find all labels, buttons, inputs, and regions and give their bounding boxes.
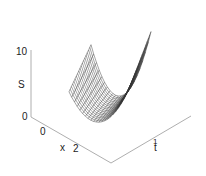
x-tick-2: 2 [73,144,79,154]
t-axis [111,116,191,163]
mesh-line [124,52,146,100]
mesh-line [121,61,143,105]
z-axis-label: S [18,80,25,90]
axes [31,50,191,163]
mesh-line [91,32,151,96]
mesh-line [126,42,148,94]
t-axis-label: t [154,143,157,153]
z-tick-10: 10 [16,47,27,57]
x-axis-label: x [60,143,65,153]
surface-plot [0,0,206,176]
z-tick-0: 0 [22,112,28,122]
x-axis [31,117,111,163]
x-tick-0: 0 [40,127,46,137]
mesh-line [129,32,151,90]
wireframe-mesh [69,32,151,123]
